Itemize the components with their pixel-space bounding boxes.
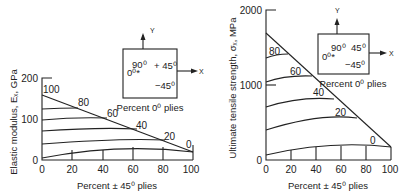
left-xtick-100: 100 (183, 164, 200, 175)
left-curve-label-20: 20 (164, 131, 176, 142)
right-curve-40 (266, 98, 334, 107)
left-curve-label-100: 100 (43, 84, 60, 95)
left-xtick-0: 0 (39, 164, 45, 175)
right-xtick-80: 80 (360, 164, 372, 175)
left-inset-plus45: + 45⁰ (154, 60, 177, 71)
left-inset-minus45: −45⁰ (155, 80, 175, 91)
right-inset-45: 45⁰ (351, 42, 366, 53)
left-xaxis-label: Percent ± 45⁰ plies (77, 180, 157, 191)
right-xtick-100: 100 (382, 164, 399, 175)
right-xtick-40: 40 (310, 164, 322, 175)
left-inset-caption: Percent 0⁰ plies (117, 102, 184, 113)
left-yaxis-label: Elastic modulus, Eₓ, GPa (8, 69, 19, 175)
left-ytick-200: 200 (21, 73, 38, 84)
left-xtick-80: 80 (157, 164, 169, 175)
right-inset-minus45: −45⁰ (345, 59, 365, 70)
figure: 200 100 0 0 20 40 60 80 100 Percent ± 45… (0, 0, 404, 195)
left-inset-y-axis: Y (150, 27, 155, 34)
left-xtick-60: 60 (127, 164, 139, 175)
right-ytick-1000: 1000 (240, 80, 263, 91)
left-curve-40 (42, 128, 137, 131)
right-ytick-0: 0 (256, 155, 262, 166)
left-curve-80 (42, 108, 78, 109)
left-inset-x-axis: X (199, 68, 204, 75)
right-xtick-0: 0 (263, 164, 269, 175)
right-inset-x-axis: X (389, 50, 394, 57)
left-inset-0: 0⁰* (127, 67, 140, 78)
left-curve-60 (42, 118, 107, 120)
left-curve-20 (42, 140, 165, 145)
right-xtick-60: 60 (335, 164, 347, 175)
right-yaxis-label: Ultimate tensile strength, σₓ, MPa (227, 17, 238, 159)
left-curve-label-0: 0 (186, 139, 192, 150)
right-curve-label-80: 80 (269, 46, 281, 57)
right-curve-20 (266, 117, 357, 130)
right-curve-label-60: 60 (290, 66, 302, 77)
left-xtick-20: 20 (66, 164, 78, 175)
right-inset-caption: Percent 0⁰ plies (320, 78, 387, 89)
left-curve-0 (42, 149, 193, 158)
right-xaxis-label: Percent ± 45⁰ plies (288, 180, 368, 191)
right-curve-60 (266, 76, 312, 82)
right-xtick-20: 20 (285, 164, 297, 175)
right-ytick-2000: 2000 (240, 5, 263, 16)
right-curve-label-0: 0 (370, 135, 376, 146)
left-curve-label-80: 80 (78, 97, 90, 108)
right-curve-label-20: 20 (335, 107, 347, 118)
left-ytick-100: 100 (21, 114, 38, 125)
left-curve-label-40: 40 (136, 120, 148, 131)
right-curve-0 (266, 145, 391, 155)
right-inset-y-axis: Y (335, 7, 340, 14)
left-xtick-40: 40 (97, 164, 109, 175)
left-ytick-0: 0 (32, 155, 38, 166)
right-inset-0: 0⁰* (322, 51, 335, 62)
